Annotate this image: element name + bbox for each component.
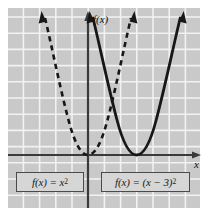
equation-box-x-minus-3-squared: f(x) = (x − 3)2 xyxy=(101,172,190,192)
x-axis-label: x xyxy=(194,159,199,170)
equation-text-left: f(x) = x xyxy=(32,177,64,188)
y-axis-label: f(x) xyxy=(93,14,108,25)
equation-box-x-squared: f(x) = x2 xyxy=(16,172,84,192)
parabola-figure: f(x) x f(x) = x2 f(x) = (x − 3)2 xyxy=(0,0,207,217)
equation-text-right: f(x) = (x − 3) xyxy=(115,177,172,188)
